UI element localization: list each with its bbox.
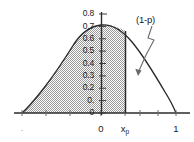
y-tick-label-0-2: 0.2 [62, 83, 94, 92]
one-minus-p-annotation: (1-p) [136, 14, 155, 25]
x-p-main: x [121, 123, 126, 134]
y-tick-label-0-3: 0.3 [62, 71, 94, 80]
y-tick-label-0: 0 [62, 108, 94, 117]
y-tick-label-0-6: 0.6 [62, 34, 94, 43]
y-tick-label-0-8: 0.8 [62, 9, 94, 18]
x-tick-label-x-p: xp [115, 124, 135, 134]
x-tick-label-minus-one: - [12, 126, 32, 134]
density-plot-figure: 0.8 0.7 0.6 0.5 0.4 0.3 0.2 0. 0 - 0 xp … [0, 0, 194, 142]
y-tick-label-0-5: 0.5 [62, 46, 94, 55]
plot-canvas [0, 0, 194, 142]
x-p-subscript: p [126, 128, 130, 135]
x-tick-label-one: 1 [166, 124, 186, 134]
x-tick-label-zero: 0 [91, 124, 111, 134]
y-tick-label-0-7: 0.7 [62, 22, 94, 31]
y-tick-label-0-4: 0.4 [62, 59, 94, 68]
zigzag-arrow-head-icon [135, 69, 141, 76]
y-tick-label-0-1: 0. [62, 96, 94, 105]
zigzag-arrow-icon [138, 26, 154, 73]
